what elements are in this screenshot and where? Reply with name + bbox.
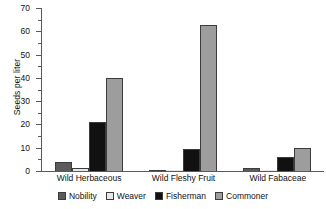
legend-item-commoner[interactable]: Commoner bbox=[215, 192, 268, 201]
legend-swatch-icon bbox=[155, 192, 163, 200]
bar-commoner bbox=[200, 25, 217, 171]
x-axis-category-label: Wild Fabaceae bbox=[231, 174, 325, 183]
y-tick-minor bbox=[38, 90, 41, 91]
y-tick-label: 20 bbox=[21, 120, 30, 129]
legend-label: Nobility bbox=[69, 192, 97, 201]
legend-swatch-icon bbox=[215, 192, 223, 200]
bar-weaver bbox=[260, 170, 277, 171]
bar-group bbox=[230, 8, 324, 171]
legend-item-weaver[interactable]: Weaver bbox=[106, 192, 146, 201]
bar-weaver bbox=[166, 170, 183, 171]
bar-group bbox=[42, 8, 136, 171]
plot-area: 010203040506070 bbox=[41, 8, 324, 172]
y-tick-major bbox=[36, 171, 41, 172]
y-tick-minor bbox=[38, 113, 41, 114]
legend-label: Weaver bbox=[117, 192, 146, 201]
bar-weaver bbox=[72, 168, 89, 171]
bar-commoner bbox=[294, 148, 311, 171]
y-tick-label: 30 bbox=[21, 97, 30, 106]
y-tick-minor bbox=[38, 159, 41, 160]
y-tick-label: 60 bbox=[21, 27, 30, 36]
x-axis-category-label: Wild Fleshy Fruit bbox=[136, 174, 230, 183]
legend-label: Fisherman bbox=[166, 192, 206, 201]
bar-chart: Seeds per liter 010203040506070 Wild Her… bbox=[0, 0, 326, 209]
bar-fisherman bbox=[277, 157, 294, 171]
bar-group-bars bbox=[42, 8, 136, 171]
y-tick-label: 0 bbox=[25, 167, 30, 176]
bar-group bbox=[136, 8, 230, 171]
bar-fisherman bbox=[89, 122, 106, 171]
legend-swatch-icon bbox=[58, 192, 66, 200]
y-tick-label: 50 bbox=[21, 50, 30, 59]
y-tick-minor bbox=[38, 136, 41, 137]
y-tick-minor bbox=[38, 20, 41, 21]
y-tick-major bbox=[36, 101, 41, 102]
bar-group-bars bbox=[136, 8, 230, 171]
y-tick-major bbox=[36, 148, 41, 149]
y-tick-minor bbox=[38, 43, 41, 44]
bar-nobility bbox=[55, 162, 72, 171]
chart-legend: NobilityWeaverFishermanCommoner bbox=[0, 192, 326, 201]
y-tick-label: 40 bbox=[21, 74, 30, 83]
x-axis-category-labels: Wild HerbaceousWild Fleshy FruitWild Fab… bbox=[42, 174, 325, 183]
y-tick-minor bbox=[38, 66, 41, 67]
y-tick-label: 10 bbox=[21, 143, 30, 152]
bar-commoner bbox=[106, 78, 123, 171]
legend-item-nobility[interactable]: Nobility bbox=[58, 192, 97, 201]
y-tick-major bbox=[36, 124, 41, 125]
bar-nobility bbox=[149, 170, 166, 171]
legend-swatch-icon bbox=[106, 192, 114, 200]
y-tick-major bbox=[36, 78, 41, 79]
legend-label: Commoner bbox=[226, 192, 268, 201]
y-tick-label: 70 bbox=[21, 4, 30, 13]
y-tick-major bbox=[36, 8, 41, 9]
legend-item-fisherman[interactable]: Fisherman bbox=[155, 192, 206, 201]
bar-group-bars bbox=[230, 8, 324, 171]
x-axis-line bbox=[41, 171, 324, 172]
bar-nobility bbox=[243, 168, 260, 171]
y-tick-major bbox=[36, 31, 41, 32]
y-tick-major bbox=[36, 55, 41, 56]
bar-fisherman bbox=[183, 149, 200, 171]
x-axis-category-label: Wild Herbaceous bbox=[42, 174, 136, 183]
bar-groups bbox=[42, 8, 324, 171]
